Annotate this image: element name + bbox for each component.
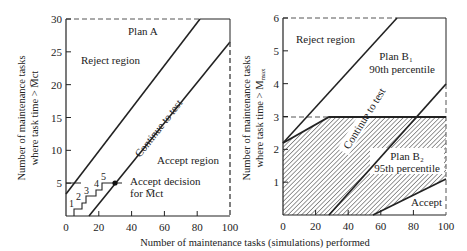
x-tick-label: 60 bbox=[159, 221, 171, 233]
x-tick-label: 100 bbox=[438, 220, 455, 232]
y-tick-label: 30 bbox=[51, 13, 63, 25]
y-tick-label: 5 bbox=[274, 45, 280, 57]
x-tick-label: 60 bbox=[375, 220, 387, 232]
x-axis-label: Number of maintenance tasks (simulations… bbox=[140, 237, 370, 249]
y-tick-label: 25 bbox=[51, 46, 63, 58]
y-axis-label-right-2-sub: max bbox=[259, 68, 267, 81]
y-tick-label: 6 bbox=[274, 12, 280, 24]
y-tick-label: 1 bbox=[274, 176, 280, 188]
x-tick-label: 20 bbox=[310, 220, 322, 232]
reject-region-label-left: Reject region bbox=[81, 54, 140, 66]
plan-a-title: Plan A bbox=[128, 25, 158, 37]
y-axis-label-right-2-main: where task time > M bbox=[254, 80, 265, 168]
x-tick-label: 0 bbox=[280, 220, 286, 232]
accept-region-label: Accept region bbox=[157, 154, 219, 166]
y-axis-label-right-2: where task time > Mmax bbox=[254, 68, 267, 168]
y-tick-label: 3 bbox=[274, 111, 280, 123]
x-tick-label: 40 bbox=[126, 221, 138, 233]
y-axis-label-left-1: Number of maintenance tasks bbox=[16, 55, 27, 180]
y-tick-label: 10 bbox=[51, 144, 63, 156]
step-label-3: 3 bbox=[84, 185, 89, 196]
x-tick-label: 0 bbox=[63, 221, 69, 233]
plan-b1-title: Plan B₁ bbox=[379, 50, 413, 62]
y-tick-label: 20 bbox=[51, 79, 63, 91]
y-tick-label: 15 bbox=[51, 112, 63, 124]
accept-label-right: Accept bbox=[411, 196, 442, 208]
plan-b1-title-line1: Plan B₁ bbox=[379, 50, 413, 62]
plot-plan-b: 123456 020406080100 Reject region Plan B… bbox=[241, 12, 455, 232]
decision-point-marker bbox=[112, 180, 117, 185]
accept-decision-label-2: for M̅ct bbox=[130, 187, 163, 199]
step-label-5: 5 bbox=[101, 171, 106, 182]
x-tick-label: 80 bbox=[408, 220, 420, 232]
step-label-4: 4 bbox=[94, 178, 99, 189]
step-label-2: 2 bbox=[76, 191, 81, 202]
plan-b2-title: Plan B₂ bbox=[390, 150, 424, 162]
step-label-1: 1 bbox=[69, 198, 74, 209]
plot-plan-a: 51015202530 020406080100 1 2 3 4 5 Plan … bbox=[16, 13, 239, 233]
figure-canvas: 51015202530 020406080100 1 2 3 4 5 Plan … bbox=[0, 0, 467, 251]
x-tick-label: 80 bbox=[192, 221, 204, 233]
x-tick-label: 40 bbox=[343, 220, 355, 232]
y-axis-label-left-2: where task time > M̅ct bbox=[29, 71, 40, 166]
plan-b2-subtitle: 95th percentile bbox=[374, 162, 440, 174]
plan-b1-subtitle: 90th percentile bbox=[369, 63, 435, 75]
x-tick-label: 20 bbox=[93, 221, 105, 233]
accept-decision-label: Accept decision bbox=[130, 175, 201, 187]
y-tick-label: 4 bbox=[274, 78, 280, 90]
y-axis-label-right-1: Number of maintenance tasks bbox=[241, 55, 252, 180]
reject-region-label-right: Reject region bbox=[296, 33, 355, 45]
y-tick-label: 5 bbox=[57, 177, 63, 189]
y-tick-label: 2 bbox=[274, 143, 280, 155]
y-ticks-left: 51015202530 bbox=[51, 13, 71, 189]
continue-to-test-label-left: Continue to test bbox=[132, 97, 184, 159]
x-tick-label: 100 bbox=[222, 221, 239, 233]
